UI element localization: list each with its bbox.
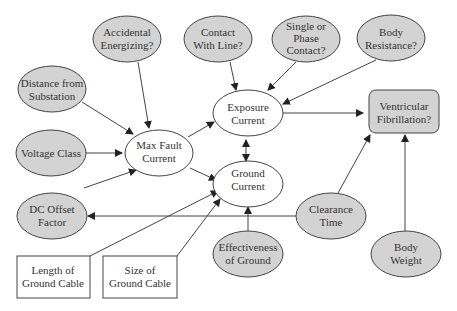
svg-text:Exposure: Exposure (227, 101, 269, 113)
node-length-of-ground-cable: Length of Ground Cable (17, 256, 90, 298)
node-single-or-phase-contact: Single or Phase Contact? (272, 16, 340, 62)
node-body-resistance: Body Resistance? (357, 15, 425, 61)
svg-text:Body: Body (379, 26, 403, 38)
svg-text:Max Fault: Max Fault (136, 139, 182, 151)
svg-text:Fibrillation?: Fibrillation? (377, 113, 432, 125)
svg-text:Current: Current (231, 114, 265, 126)
svg-text:Distance from: Distance from (21, 77, 84, 89)
node-distance-from-substation: Distance from Substation (18, 66, 86, 112)
svg-text:Time: Time (320, 216, 343, 228)
svg-text:Clearance: Clearance (309, 203, 353, 215)
node-accidental-energizing: Accidental Energizing? (93, 16, 161, 62)
svg-text:Ground Cable: Ground Cable (109, 277, 171, 289)
node-ground-current: Ground Current (213, 161, 283, 207)
node-exposure-current: Exposure Current (213, 90, 283, 136)
svg-text:Factor: Factor (38, 216, 66, 228)
svg-text:Accidental: Accidental (103, 26, 151, 38)
svg-text:With Line?: With Line? (193, 39, 242, 51)
node-clearance-time: Clearance Time (296, 193, 366, 239)
svg-text:Single or: Single or (286, 20, 326, 32)
svg-text:Ground Cable: Ground Cable (22, 277, 84, 289)
svg-text:Weight: Weight (390, 254, 422, 266)
svg-text:Current: Current (142, 152, 176, 164)
influence-diagram: Accidental Energizing? Contact With Line… (0, 0, 457, 311)
node-max-fault-current: Max Fault Current (125, 130, 193, 176)
node-contact-with-line: Contact With Line? (184, 16, 252, 62)
node-size-of-ground-cable: Size of Ground Cable (103, 256, 177, 298)
node-body-weight: Body Weight (371, 231, 441, 277)
svg-text:Size of: Size of (125, 264, 156, 276)
svg-text:Substation: Substation (29, 90, 76, 102)
svg-text:Phase: Phase (293, 32, 319, 44)
node-ventricular-fibrillation: Ventricular Fibrillation? (369, 90, 439, 133)
svg-text:Length of: Length of (31, 264, 74, 276)
svg-text:Resistance?: Resistance? (365, 39, 417, 51)
node-effectiveness-of-ground: Effectiveness of Ground (213, 231, 283, 277)
svg-text:Body: Body (394, 241, 418, 253)
node-dc-offset-factor: DC Offset Factor (17, 193, 87, 239)
svg-text:Ground: Ground (231, 167, 265, 179)
svg-text:Energizing?: Energizing? (101, 39, 154, 51)
svg-text:of Ground: of Ground (225, 254, 271, 266)
svg-text:DC Offset: DC Offset (29, 203, 74, 215)
svg-text:Contact?: Contact? (286, 44, 325, 56)
node-voltage-class: Voltage Class (16, 130, 86, 176)
svg-text:Ventricular: Ventricular (380, 100, 429, 112)
svg-text:Contact: Contact (201, 26, 235, 38)
svg-text:Voltage Class: Voltage Class (21, 147, 81, 159)
svg-text:Current: Current (231, 180, 265, 192)
svg-text:Effectiveness: Effectiveness (218, 241, 277, 253)
